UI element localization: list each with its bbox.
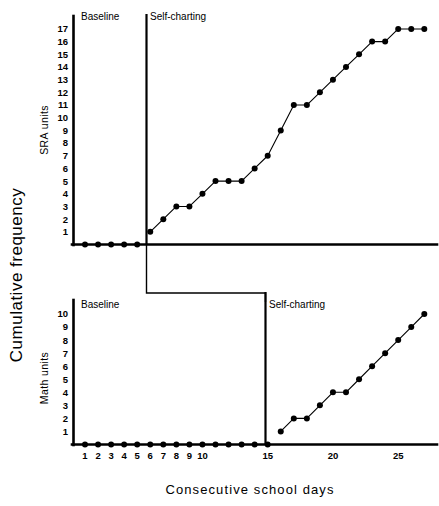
data-point xyxy=(382,350,388,356)
y-tick-label: 10 xyxy=(57,308,68,319)
data-point xyxy=(369,39,375,45)
data-point xyxy=(121,442,127,448)
data-point xyxy=(395,337,401,343)
data-point xyxy=(213,442,219,448)
data-point xyxy=(121,242,127,248)
data-point xyxy=(369,363,375,369)
data-point xyxy=(160,442,166,448)
data-point xyxy=(186,442,192,448)
data-point xyxy=(343,389,349,395)
x-tick-label: 6 xyxy=(148,450,153,461)
y-tick-label: 7 xyxy=(63,348,68,359)
data-point xyxy=(408,26,414,32)
data-point xyxy=(186,203,192,209)
data-point xyxy=(330,77,336,83)
data-point xyxy=(278,428,284,434)
figure-container: Cumulative frequency SRA units 123456789… xyxy=(0,0,439,506)
data-point xyxy=(108,442,114,448)
data-point xyxy=(199,442,205,448)
y-tick-label: 2 xyxy=(63,413,68,424)
data-point xyxy=(317,402,323,408)
panel-math-series-baseline xyxy=(82,442,271,448)
y-tick-label: 6 xyxy=(63,163,68,174)
y-tick-label: 16 xyxy=(57,36,68,47)
x-tick-label: 7 xyxy=(161,450,166,461)
panel-math-y-tick-labels: 12345678910 xyxy=(57,308,68,436)
y-tick-label: 4 xyxy=(63,387,69,398)
data-point xyxy=(108,242,114,248)
series-line xyxy=(150,29,424,232)
y-tick-label: 1 xyxy=(63,226,69,237)
y-tick-label: 11 xyxy=(58,99,69,110)
data-point xyxy=(356,376,362,382)
data-point xyxy=(239,178,245,184)
x-tick-label: 10 xyxy=(197,450,208,461)
y-tick-label: 5 xyxy=(63,374,69,385)
data-point xyxy=(304,102,310,108)
data-point xyxy=(82,442,88,448)
y-tick-label: 2 xyxy=(63,214,68,225)
x-tick-label: 9 xyxy=(187,450,192,461)
data-point xyxy=(226,442,232,448)
x-tick-label: 5 xyxy=(135,450,141,461)
data-point xyxy=(134,442,140,448)
y-tick-label: 12 xyxy=(57,87,68,98)
data-point xyxy=(265,153,271,159)
y-tick-label: 17 xyxy=(57,23,68,34)
data-point xyxy=(421,311,427,317)
y-tick-label: 15 xyxy=(57,49,68,60)
data-point xyxy=(147,229,153,235)
data-point xyxy=(382,39,388,45)
data-point xyxy=(343,64,349,70)
data-point xyxy=(304,415,310,421)
y-tick-label: 9 xyxy=(63,321,68,332)
y-tick-label: 3 xyxy=(63,201,68,212)
x-tick-label: 3 xyxy=(108,450,113,461)
panel-sra-series-self-charting xyxy=(147,26,427,235)
data-point xyxy=(173,442,179,448)
x-tick-label: 25 xyxy=(393,450,404,461)
x-tick-label: 15 xyxy=(262,450,273,461)
data-point xyxy=(160,216,166,222)
data-point xyxy=(317,89,323,95)
panel-math-units: Math units 12345678910 Baseline Self-cha… xyxy=(38,292,437,461)
data-point xyxy=(408,324,414,330)
y-tick-label: 10 xyxy=(57,112,68,123)
panel-math-phase-label-self-charting: Self-charting xyxy=(269,299,325,310)
data-point xyxy=(265,442,271,448)
y-tick-label: 5 xyxy=(63,176,69,187)
data-point xyxy=(239,442,245,448)
panel-math-y-title: Math units xyxy=(38,352,50,404)
y-tick-label: 1 xyxy=(63,426,69,437)
data-point xyxy=(330,389,336,395)
data-point xyxy=(134,242,140,248)
data-point xyxy=(291,415,297,421)
x-tick-label: 20 xyxy=(328,450,339,461)
panel-math-series-self-charting xyxy=(278,311,428,434)
y-tick-label: 6 xyxy=(63,361,68,372)
panel-sra-phase-label-baseline: Baseline xyxy=(81,11,120,22)
y-tick-label: 13 xyxy=(57,74,68,85)
panel-sra-units: SRA units 1234567891011121314151617 Base… xyxy=(38,11,437,248)
x-tick-label: 4 xyxy=(122,450,128,461)
panel-sra-y-title: SRA units xyxy=(38,105,50,155)
data-point xyxy=(252,442,258,448)
data-point xyxy=(226,178,232,184)
y-tick-label: 4 xyxy=(63,188,69,199)
y-tick-label: 14 xyxy=(57,61,68,72)
y-tick-label: 8 xyxy=(63,335,68,346)
x-tick-label: 2 xyxy=(95,450,100,461)
data-point xyxy=(252,165,258,171)
data-point xyxy=(82,242,88,248)
panel-sra-y-tick-labels: 1234567891011121314151617 xyxy=(57,23,68,237)
data-point xyxy=(173,203,179,209)
data-point xyxy=(278,127,284,133)
data-point xyxy=(291,102,297,108)
data-point xyxy=(95,442,101,448)
x-axis-tick-labels: 12345678910152025 xyxy=(82,450,404,461)
cumulative-frequency-chart: Cumulative frequency SRA units 123456789… xyxy=(0,0,439,506)
x-tick-label: 1 xyxy=(82,450,88,461)
panel-math-phase-label-baseline: Baseline xyxy=(81,299,120,310)
data-point xyxy=(95,242,101,248)
y-tick-label: 7 xyxy=(63,150,68,161)
